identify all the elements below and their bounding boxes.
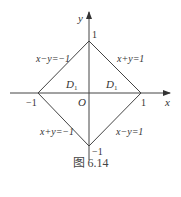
line-label-upper-left: x−y=−1 <box>35 53 70 64</box>
region-label-right: D1 <box>105 78 118 92</box>
region-label-left: D1 <box>65 78 78 92</box>
figure-6-14: y x O 1 −1 1 −1 x−y=−1 x+y=1 x+y=−1 x−y=… <box>0 0 181 197</box>
x-axis-label: x <box>164 96 170 108</box>
y-axis-label: y <box>77 12 83 24</box>
tick-y-pos: 1 <box>92 29 97 40</box>
tick-x-neg: −1 <box>26 97 37 108</box>
line-label-lower-left: x+y=−1 <box>39 126 74 137</box>
line-label-lower-right: x−y=1 <box>115 126 143 137</box>
tick-x-pos: 1 <box>141 97 146 108</box>
origin-label: O <box>78 96 86 108</box>
line-label-upper-right: x+y=1 <box>116 53 144 64</box>
figure-caption: 图 6.14 <box>0 153 181 171</box>
